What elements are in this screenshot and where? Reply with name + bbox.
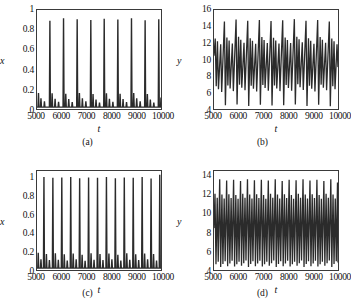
y-tick: 0.4 [23, 65, 34, 75]
x-tick: 5000 [27, 111, 44, 121]
x-tick: 10000 [329, 272, 351, 282]
x-tick: 8000 [280, 111, 297, 121]
panel-c-caption: (c) [0, 288, 175, 298]
y-tick: 0.4 [23, 228, 34, 238]
y-tick: 12 [202, 189, 211, 199]
x-tick: 10000 [329, 111, 351, 121]
x-tick: 9000 [128, 111, 145, 121]
panel-b: y 16 14 12 10 8 6 4 5000 6000 7000 8000 … [175, 0, 350, 150]
panel-b-series [214, 10, 338, 109]
panel-d-series [214, 171, 338, 270]
panel-a-caption: (a) [0, 137, 175, 147]
panel-d-y-axis: y 14 12 10 8 6 4 [177, 170, 211, 271]
panel-a-xlabel: t [36, 123, 162, 134]
y-tick: 16 [202, 4, 211, 14]
panel-a-frame [36, 9, 162, 110]
panel-d-plot: y 14 12 10 8 6 4 5000 6000 7000 8000 900… [213, 170, 339, 271]
x-tick: 7000 [78, 272, 95, 282]
panel-c: x 1 0.8 0.6 0.4 0.2 0 5000 6000 7000 800… [0, 150, 175, 301]
y-tick: 0.2 [23, 85, 34, 95]
panel-b-xlabel: t [213, 123, 339, 134]
panel-c-ylabel: x [0, 215, 4, 226]
y-tick: 6 [206, 247, 211, 257]
x-tick: 7000 [78, 111, 95, 121]
x-tick: 7000 [255, 272, 272, 282]
y-tick: 14 [202, 170, 211, 180]
x-tick: 9000 [128, 272, 145, 282]
panel-b-frame [213, 9, 339, 110]
panel-a-ylabel: x [0, 54, 4, 65]
panel-d-ylabel: y [177, 215, 181, 226]
y-tick: 8 [206, 228, 211, 238]
y-tick: 1 [29, 172, 34, 182]
panel-c-plot: x 1 0.8 0.6 0.4 0.2 0 5000 6000 7000 800… [36, 170, 162, 271]
x-tick: 9000 [305, 111, 322, 121]
x-tick: 5000 [27, 272, 44, 282]
panel-c-y-axis: x 1 0.8 0.6 0.4 0.2 0 [0, 170, 34, 271]
x-tick: 6000 [52, 111, 69, 121]
y-tick: 0.8 [23, 24, 34, 34]
panel-b-ylabel: y [177, 54, 181, 65]
x-tick: 10000 [152, 272, 174, 282]
panel-d: y 14 12 10 8 6 4 5000 6000 7000 8000 900… [175, 150, 350, 301]
y-tick: 0.8 [23, 191, 34, 201]
panel-c-series [37, 171, 161, 270]
panel-a-y-axis: x 1 0.8 0.6 0.4 0.2 0 [0, 9, 34, 110]
y-tick: 12 [202, 38, 211, 48]
x-tick: 6000 [229, 111, 246, 121]
x-tick: 10000 [152, 111, 174, 121]
x-tick: 6000 [229, 272, 246, 282]
x-tick: 8000 [103, 111, 120, 121]
panel-a-series [37, 10, 161, 109]
x-tick: 5000 [204, 272, 221, 282]
panel-a: x 1 0.8 0.6 0.4 0.2 0 5000 6000 7000 800… [0, 0, 175, 150]
y-tick: 14 [202, 21, 211, 31]
y-tick: 10 [202, 55, 211, 65]
panel-d-frame [213, 170, 339, 271]
y-tick: 6 [206, 88, 211, 98]
y-tick: 10 [202, 208, 211, 218]
panel-b-plot: y 16 14 12 10 8 6 4 5000 6000 7000 8000 … [213, 9, 339, 110]
x-tick: 9000 [305, 272, 322, 282]
x-tick: 8000 [103, 272, 120, 282]
y-tick: 0.6 [23, 44, 34, 54]
y-tick: 0.6 [23, 210, 34, 220]
y-tick: 0.2 [23, 247, 34, 257]
panel-d-caption: (d) [175, 288, 350, 298]
x-tick: 8000 [280, 272, 297, 282]
y-tick: 1 [29, 4, 34, 14]
panel-b-caption: (b) [175, 137, 350, 147]
x-tick: 7000 [255, 111, 272, 121]
y-tick: 8 [206, 71, 211, 81]
panel-c-frame [36, 170, 162, 271]
x-tick: 6000 [52, 272, 69, 282]
panel-a-plot: x 1 0.8 0.6 0.4 0.2 0 5000 6000 7000 800… [36, 9, 162, 110]
panel-b-y-axis: y 16 14 12 10 8 6 4 [177, 9, 211, 110]
x-tick: 5000 [204, 111, 221, 121]
